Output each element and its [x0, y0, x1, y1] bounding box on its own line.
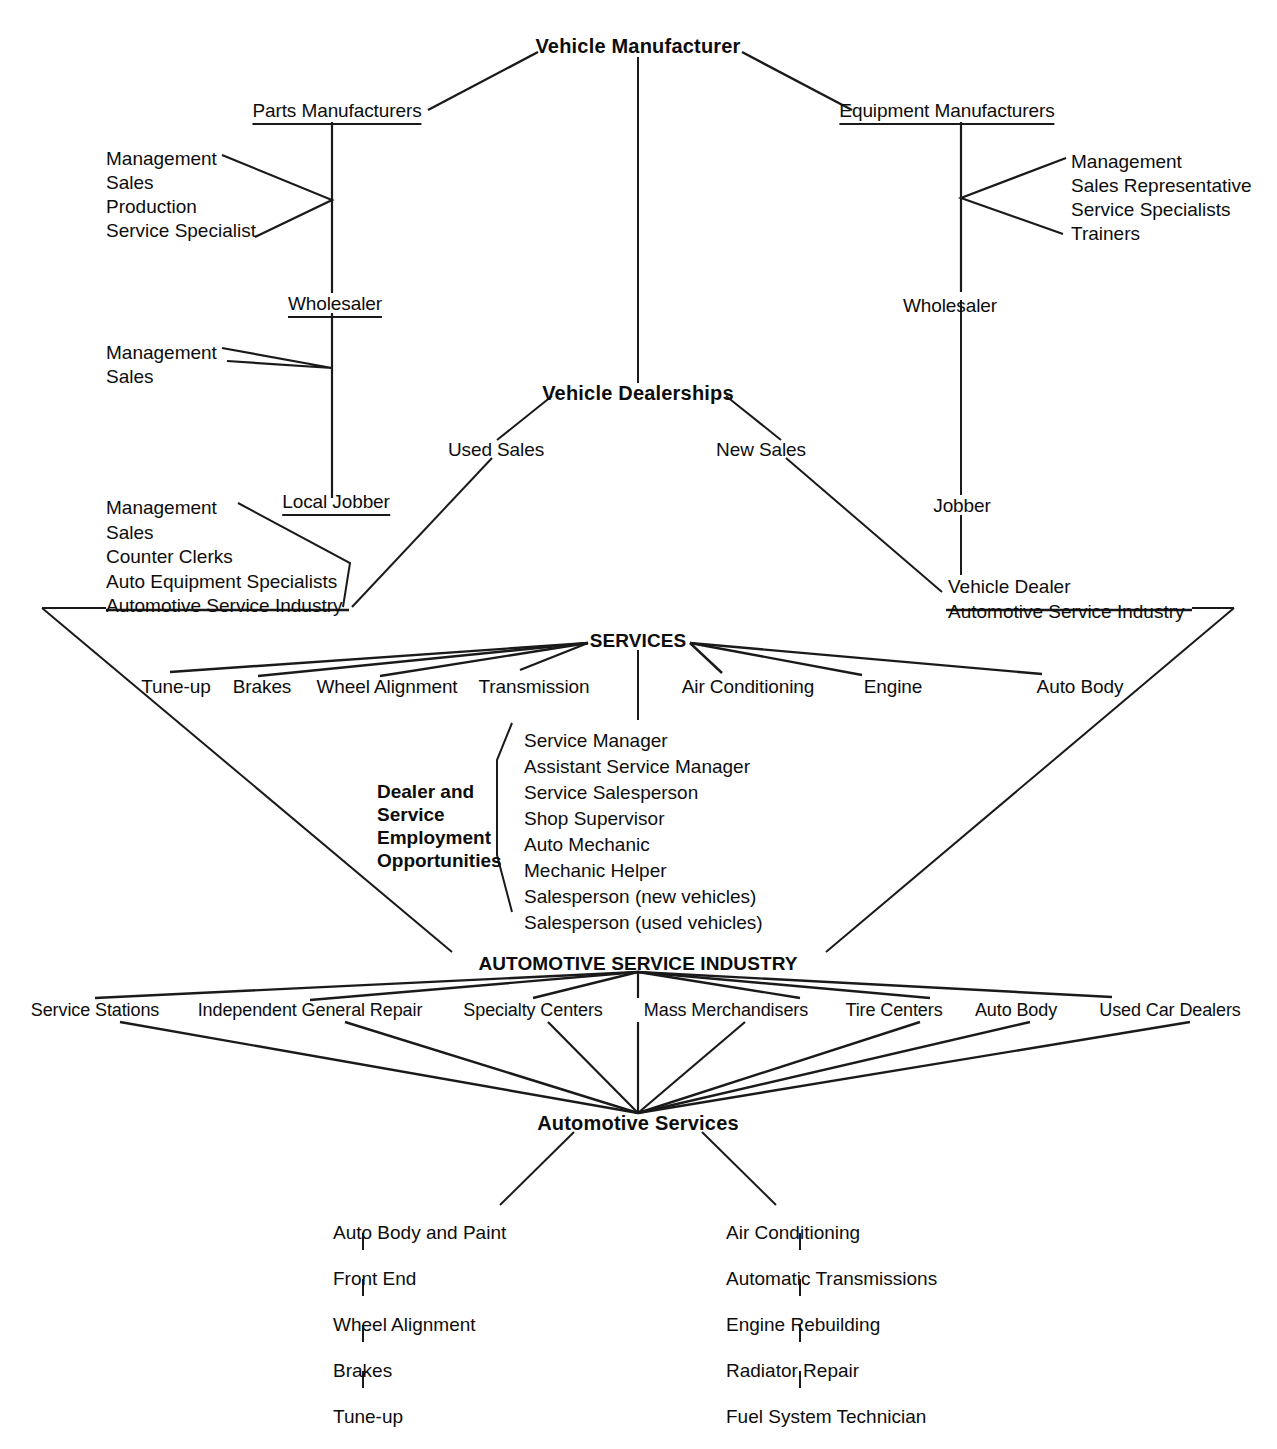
equipment-manufacturer-roles: Management Sales Representative Service … [1071, 150, 1252, 246]
chain-item: Front End [333, 1256, 506, 1302]
role-item: Sales [106, 521, 343, 546]
employment-title: Dealer and Service Employment Opportunit… [377, 780, 502, 872]
employment-title-line: Employment [377, 826, 502, 849]
chain-item: Automatic Transmissions [726, 1256, 937, 1302]
chain-item: Auto Body and Paint [333, 1210, 506, 1256]
list-item: Shop Supervisor [524, 806, 763, 832]
node-vehicle-manufacturer: Vehicle Manufacturer [535, 36, 740, 56]
role-item: Management [106, 147, 256, 171]
service-item-air-conditioning: Air Conditioning [682, 677, 815, 696]
node-asi-right: Automotive Service Industry [948, 600, 1185, 625]
role-item: Counter Clerks [106, 545, 343, 570]
category-mass-merchandisers: Mass Merchandisers [644, 1001, 808, 1019]
chain-item: Fuel System Technician [726, 1394, 937, 1440]
list-item: Salesperson (new vehicles) [524, 884, 763, 910]
role-item: Auto Equipment Specialists [106, 570, 343, 595]
chain-item: Wheel Alignment [333, 1302, 506, 1348]
category-tire-centers: Tire Centers [845, 1001, 942, 1019]
vehicle-dealer-block: Vehicle Dealer Automotive Service Indust… [948, 575, 1185, 624]
role-item: Trainers [1071, 222, 1252, 246]
role-item: Service Specialists [1071, 198, 1252, 222]
chain-item: Radiator Repair [726, 1348, 937, 1394]
employment-opportunities-list: Service Manager Assistant Service Manage… [524, 728, 763, 936]
role-item: Service Specialist [106, 219, 256, 243]
list-item: Auto Mechanic [524, 832, 763, 858]
role-item: Management [1071, 150, 1252, 174]
parts-manufacturer-roles: Management Sales Production Service Spec… [106, 147, 256, 243]
category-specialty-centers: Specialty Centers [463, 1001, 602, 1019]
chain-item: Tune-up [333, 1394, 506, 1440]
node-used-sales: Used Sales [448, 440, 544, 459]
node-asi-left: Automotive Service Industry [106, 594, 343, 619]
service-item-engine: Engine [864, 677, 923, 696]
node-vehicle-dealerships: Vehicle Dealerships [542, 383, 734, 403]
chain-item: Engine Rebuilding [726, 1302, 937, 1348]
role-item: Management [106, 496, 343, 521]
category-independent-general-repair: Independent General Repair [198, 1001, 423, 1019]
employment-title-line: Service [377, 803, 502, 826]
automotive-services-right-chain: Air Conditioning Automatic Transmissions… [726, 1210, 937, 1440]
chain-item: Air Conditioning [726, 1210, 937, 1256]
employment-title-line: Opportunities [377, 849, 502, 872]
node-wholesaler-right: Wholesaler [903, 296, 997, 315]
service-item-transmission: Transmission [478, 677, 589, 696]
service-item-tune-up: Tune-up [141, 677, 210, 696]
role-item: Sales [106, 171, 256, 195]
list-item: Salesperson (used vehicles) [524, 910, 763, 936]
node-automotive-services: Automotive Services [537, 1113, 739, 1133]
role-item: Sales [106, 365, 217, 389]
category-service-stations: Service Stations [31, 1001, 159, 1019]
node-wholesaler-left: Wholesaler [288, 294, 382, 318]
node-parts-manufacturers: Parts Manufacturers [252, 101, 421, 125]
node-automotive-service-industry: AUTOMOTIVE SERVICE INDUSTRY [478, 954, 797, 973]
service-item-auto-body: Auto Body [1037, 677, 1124, 696]
node-services: SERVICES [590, 631, 687, 650]
node-vehicle-dealer: Vehicle Dealer [948, 575, 1185, 600]
category-auto-body: Auto Body [975, 1001, 1057, 1019]
role-item: Management [106, 341, 217, 365]
role-item: Sales Representative [1071, 174, 1252, 198]
diagram-canvas: Vehicle Manufacturer Parts Manufacturers… [0, 0, 1277, 1449]
list-item: Mechanic Helper [524, 858, 763, 884]
chain-item: Brakes [333, 1348, 506, 1394]
node-new-sales: New Sales [716, 440, 806, 459]
list-item: Service Salesperson [524, 780, 763, 806]
automotive-services-left-chain: Auto Body and Paint Front End Wheel Alig… [333, 1210, 506, 1440]
category-used-car-dealers: Used Car Dealers [1099, 1001, 1240, 1019]
service-item-wheel-alignment: Wheel Alignment [316, 677, 457, 696]
node-equipment-manufacturers: Equipment Manufacturers [839, 101, 1054, 125]
list-item: Assistant Service Manager [524, 754, 763, 780]
service-item-brakes: Brakes [233, 677, 292, 696]
node-jobber: Jobber [933, 496, 991, 515]
employment-title-line: Dealer and [377, 780, 502, 803]
local-jobber-roles: Management Sales Counter Clerks Auto Equ… [106, 496, 343, 619]
wholesaler-roles: Management Sales [106, 341, 217, 389]
list-item: Service Manager [524, 728, 763, 754]
role-item: Production [106, 195, 256, 219]
